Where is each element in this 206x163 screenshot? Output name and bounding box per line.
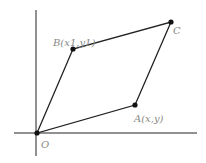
point-O xyxy=(34,130,39,135)
label-O: O xyxy=(41,139,49,150)
label-B: B(x1,y1) xyxy=(52,37,95,48)
parallelogram-diagram: O A(x,y) B(x1,y1) C xyxy=(0,0,206,163)
point-C xyxy=(168,19,173,24)
label-A: A(x,y) xyxy=(133,113,164,124)
label-C: C xyxy=(173,25,181,36)
point-A xyxy=(132,102,137,107)
